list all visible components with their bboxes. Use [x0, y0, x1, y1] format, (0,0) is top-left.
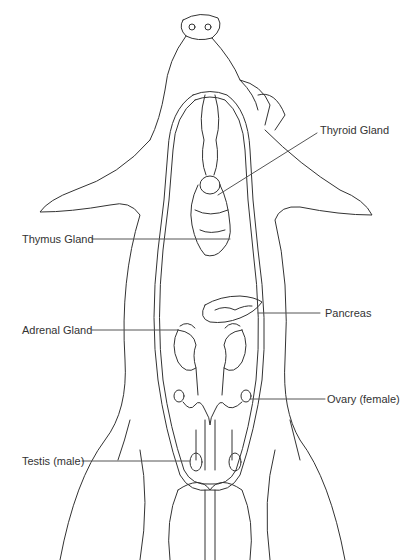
thyroid-thymus-organs	[191, 95, 230, 256]
head-outline	[150, 36, 285, 140]
kidneys-adrenals	[174, 323, 246, 395]
label-thymus-gland: Thymus Gland	[22, 233, 94, 245]
label-adrenal-gland: Adrenal Gland	[22, 324, 92, 336]
body-cavity	[154, 92, 264, 491]
body-outline	[40, 130, 372, 560]
label-testis: Testis (male)	[22, 455, 84, 467]
pig-anatomy-illustration	[0, 0, 415, 560]
label-ovary: Ovary (female)	[327, 393, 400, 405]
pancreas-organ	[202, 296, 262, 323]
label-pancreas: Pancreas	[325, 307, 371, 319]
diagram-canvas: Thyroid Gland Thymus Gland Pancreas Adre…	[0, 0, 415, 560]
snout	[181, 14, 220, 39]
label-thyroid-gland: Thyroid Gland	[320, 124, 389, 136]
